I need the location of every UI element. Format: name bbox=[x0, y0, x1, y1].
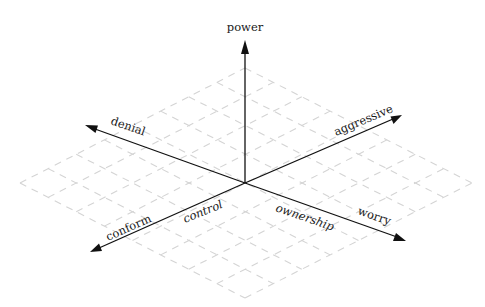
grid-line bbox=[76, 97, 302, 212]
denial-arrow-icon bbox=[85, 125, 98, 133]
aggressive-axis bbox=[245, 119, 393, 183]
aggressive-label: aggressive bbox=[332, 101, 395, 138]
ownership-label: ownership bbox=[274, 201, 337, 234]
power-label: power bbox=[227, 20, 264, 34]
worry-arrow-icon bbox=[393, 233, 406, 241]
labels-group: power denial aggressive conform control … bbox=[104, 20, 396, 244]
conform-arrow-icon bbox=[90, 244, 102, 253]
denial-axis bbox=[95, 129, 245, 183]
axes-diagram: power denial aggressive conform control … bbox=[0, 0, 485, 307]
power-arrow-icon bbox=[241, 40, 249, 54]
aggressive-arrow-icon bbox=[391, 115, 403, 124]
